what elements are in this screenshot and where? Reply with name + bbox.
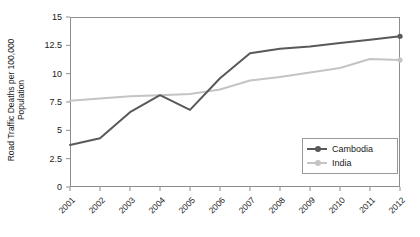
legend-label: India (332, 158, 352, 168)
series-endpoint-cambodia (397, 34, 402, 39)
legend-marker-icon (307, 158, 327, 168)
legend-marker-icon (307, 144, 327, 154)
legend-item[interactable]: Cambodia (307, 142, 392, 156)
series-endpoint-india (397, 57, 402, 62)
line-chart: Road Traffic Deaths per 100,000 Populati… (0, 0, 420, 237)
plot-area (0, 0, 420, 237)
legend-label: Cambodia (332, 144, 373, 154)
series-line-cambodia (70, 36, 400, 145)
legend-item[interactable]: India (307, 156, 392, 170)
chart-legend: CambodiaIndia (302, 138, 398, 174)
